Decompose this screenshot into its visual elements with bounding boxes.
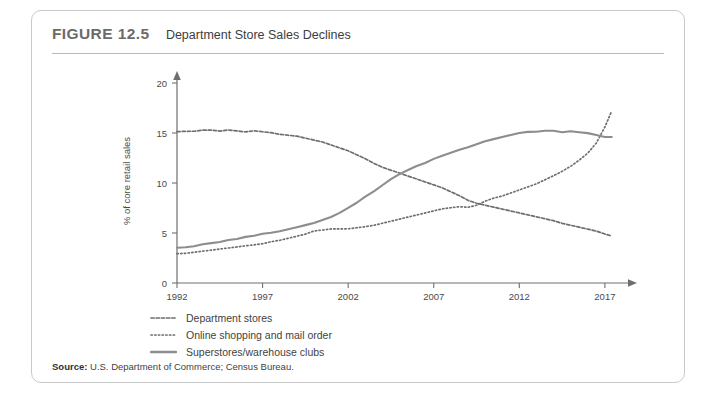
chart-plot-area: 05101520 199219972002200720122017 % of c… [52, 61, 666, 306]
y-tick-label-4: 20 [156, 78, 167, 89]
source-text: U.S. Department of Commerce; Census Bure… [90, 361, 294, 372]
source-label: Source: [52, 361, 87, 372]
y-tick-label-0: 0 [162, 278, 167, 289]
legend-swatch-dashed-icon [150, 313, 177, 323]
chart-series-group [177, 111, 612, 254]
figure-number: FIGURE 12.5 [52, 25, 149, 43]
series-line-dashed [177, 130, 612, 236]
legend-label-superstores: Superstores/warehouse clubs [186, 346, 324, 358]
x-tick-label-2: 2002 [338, 291, 359, 302]
x-tick-label-4: 2012 [509, 291, 530, 302]
y-tick-label-1: 5 [162, 228, 167, 239]
chart-legend: Department stores Online shopping and ma… [150, 309, 570, 360]
x-tick-label-5: 2017 [594, 291, 615, 302]
y-axis-title: % of core retail sales [121, 137, 132, 225]
x-axis-arrow [628, 279, 637, 287]
y-axis-arrow [173, 71, 181, 80]
line-chart: 05101520 199219972002200720122017 % of c… [52, 61, 666, 306]
y-axis-ticks: 05101520 [156, 78, 177, 289]
legend-label-online-shopping: Online shopping and mail order [186, 329, 332, 341]
x-axis-ticks: 199219972002200720122017 [166, 283, 615, 302]
chart-axes [173, 71, 637, 287]
page-title: Department Store Sales Declines [166, 28, 351, 42]
legend-swatch-solid-icon [150, 347, 177, 357]
x-tick-label-0: 1992 [166, 291, 187, 302]
legend-swatch-dotted-icon [150, 330, 177, 340]
x-tick-label-1: 1997 [252, 291, 273, 302]
y-tick-label-3: 15 [156, 128, 167, 139]
header-divider [52, 53, 664, 54]
figure-card: FIGURE 12.5 Department Store Sales Decli… [31, 10, 685, 383]
source-note: Source: U.S. Department of Commerce; Cen… [52, 361, 294, 372]
legend-label-department-stores: Department stores [186, 312, 272, 324]
x-tick-label-3: 2007 [423, 291, 444, 302]
y-tick-label-2: 10 [156, 178, 167, 189]
legend-item-online-shopping: Online shopping and mail order [150, 326, 570, 343]
series-line-solid [177, 131, 612, 248]
legend-item-superstores: Superstores/warehouse clubs [150, 343, 570, 360]
legend-item-department-stores: Department stores [150, 309, 570, 326]
